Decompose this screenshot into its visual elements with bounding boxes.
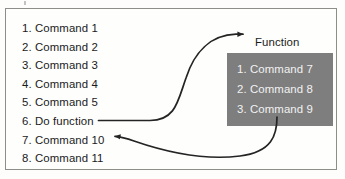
- list-item: 3. Command 3: [22, 56, 104, 75]
- list-item-command-10: 7. Command 10: [22, 131, 104, 150]
- diagram-frame: 1. Command 1 2. Command 2 3. Command 3 4…: [5, 8, 337, 170]
- list-item: 3. Command 9: [237, 99, 313, 119]
- list-item: 8. Command 11: [22, 149, 104, 168]
- list-item: 1. Command 1: [22, 19, 104, 38]
- list-item: 4. Command 4: [22, 75, 104, 94]
- function-label: Function: [255, 34, 300, 50]
- function-body-box: 1. Command 7 2. Command 8 3. Command 9: [227, 53, 333, 126]
- diagram-canvas: 1. Command 1 2. Command 2 3. Command 3 4…: [0, 0, 345, 179]
- main-program-listing: 1. Command 1 2. Command 2 3. Command 3 4…: [22, 19, 104, 168]
- function-listing: 1. Command 7 2. Command 8 3. Command 9: [237, 59, 313, 119]
- list-item: 1. Command 7: [237, 59, 313, 79]
- list-item: 2. Command 2: [22, 38, 104, 57]
- list-item-do-function: 6. Do function: [22, 112, 104, 131]
- list-item: 5. Command 5: [22, 93, 104, 112]
- scan-artifact-speck: [24, 1, 26, 5]
- list-item: 2. Command 8: [237, 79, 313, 99]
